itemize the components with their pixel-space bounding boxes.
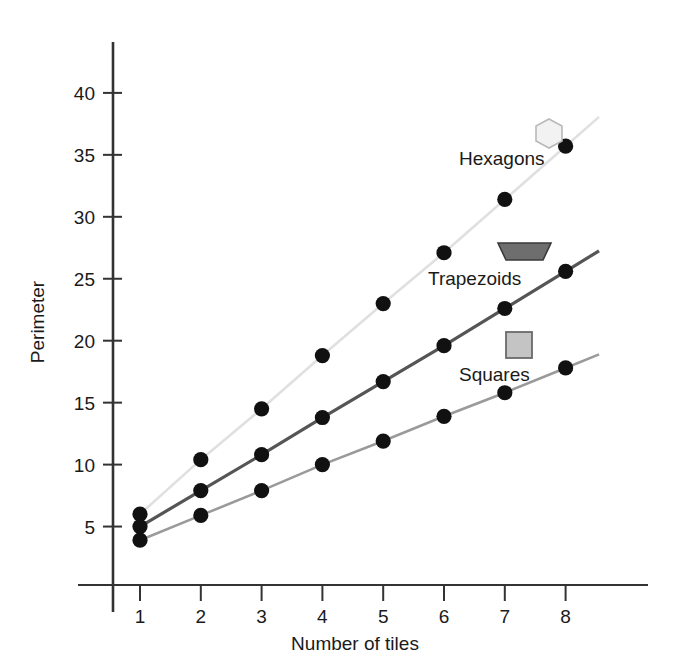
y-tick-label: 15 (74, 393, 95, 414)
y-axis-ticks: 403530252015105 (74, 83, 122, 538)
x-tick-label: 8 (560, 606, 571, 627)
data-point (497, 192, 512, 207)
data-point (315, 348, 330, 363)
data-point (132, 519, 147, 534)
hexagon-icon (536, 119, 562, 148)
data-point (315, 410, 330, 425)
data-point (193, 483, 208, 498)
data-point (436, 338, 451, 353)
data-point (254, 483, 269, 498)
x-tick-label: 3 (256, 606, 267, 627)
x-tick-label: 4 (317, 606, 328, 627)
x-tick-label: 7 (500, 606, 511, 627)
x-tick-label: 1 (135, 606, 146, 627)
square-icon (506, 332, 532, 358)
y-tick-label: 25 (74, 269, 95, 290)
series-lines-group (140, 117, 599, 540)
data-point (497, 301, 512, 316)
legend-item-squares: Squares (459, 332, 532, 385)
data-point (254, 401, 269, 416)
legend-label-squares: Squares (459, 364, 530, 385)
x-axis-title: Number of tiles (291, 633, 419, 654)
data-point (558, 360, 573, 375)
x-tick-label: 6 (439, 606, 450, 627)
data-point (376, 374, 391, 389)
y-tick-label: 35 (74, 145, 95, 166)
data-point (132, 533, 147, 548)
data-point (376, 433, 391, 448)
data-point (436, 245, 451, 260)
x-tick-label: 2 (196, 606, 207, 627)
y-tick-label: 20 (74, 331, 95, 352)
y-tick-label: 10 (74, 455, 95, 476)
trapezoid-icon (498, 243, 551, 260)
perimeter-vs-tiles-chart: 403530252015105 12345678 Perimeter Numbe… (0, 0, 680, 672)
x-axis-ticks: 12345678 (135, 585, 571, 627)
y-axis-title: Perimeter (27, 280, 48, 363)
data-point (558, 264, 573, 279)
data-point (193, 452, 208, 467)
y-tick-label: 40 (74, 83, 95, 104)
data-point (315, 457, 330, 472)
y-tick-label: 5 (84, 517, 95, 538)
data-point (376, 296, 391, 311)
data-point (193, 508, 208, 523)
data-point (497, 385, 512, 400)
legend-label-trapezoids: Trapezoids (428, 268, 521, 289)
x-tick-label: 5 (378, 606, 389, 627)
data-point (436, 409, 451, 424)
legend-label-hexagons: Hexagons (459, 148, 545, 169)
y-tick-label: 30 (74, 207, 95, 228)
data-point (254, 447, 269, 462)
